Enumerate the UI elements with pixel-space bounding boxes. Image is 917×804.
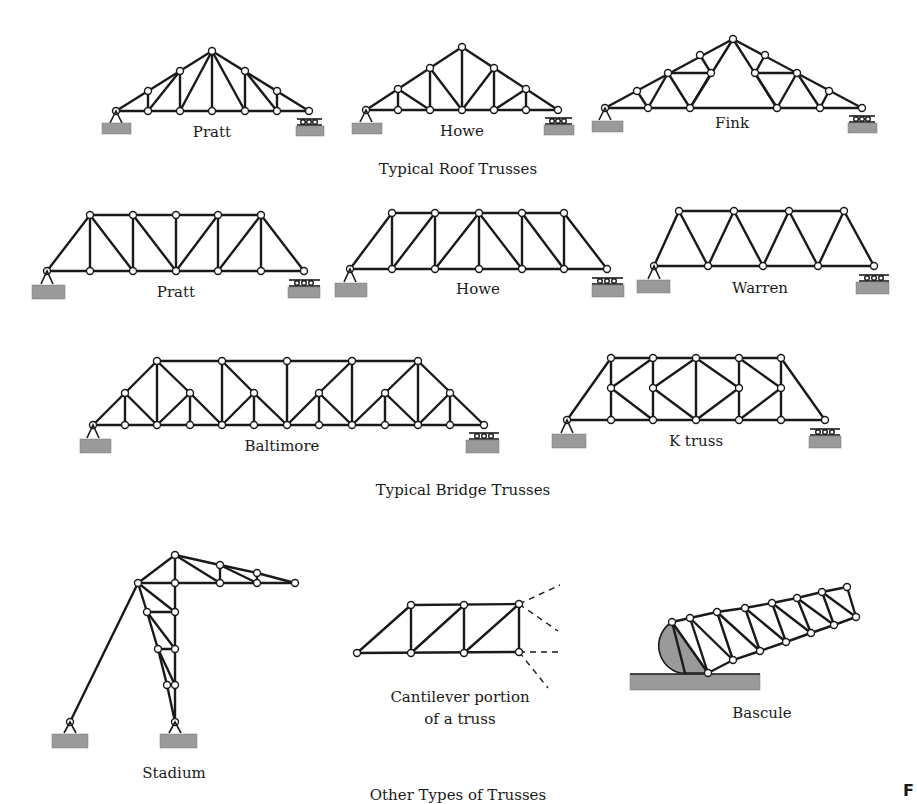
roof-fink-truss: Fink xyxy=(592,36,877,134)
pin-support xyxy=(352,110,382,134)
truss-label: Warren xyxy=(732,279,788,297)
roller-support xyxy=(466,433,499,453)
pin-support xyxy=(160,722,197,748)
truss-label: Bascule xyxy=(732,704,792,722)
truss-label-line2: of a truss xyxy=(424,710,495,728)
roller-support xyxy=(856,275,889,294)
stadium-truss: Stadium xyxy=(52,552,299,783)
roof-howe-truss: Howe xyxy=(352,44,574,141)
roof-pratt-truss: Pratt xyxy=(102,48,324,142)
truss-label: Stadium xyxy=(142,764,206,782)
roller-support xyxy=(592,278,624,297)
bridge-baltimore-truss: Baltimore xyxy=(80,358,499,456)
truss-label: Cantilever portion xyxy=(390,688,530,706)
truss-label: Pratt xyxy=(157,283,195,301)
truss-label: Howe xyxy=(440,122,484,140)
truss-figure: Pratt xyxy=(0,0,917,804)
section-caption-bridge: Typical Bridge Trusses xyxy=(376,481,550,499)
bascule-truss: Bascule xyxy=(630,584,860,723)
roller-support xyxy=(544,118,574,135)
pin-support xyxy=(335,269,367,297)
cantilever-truss: Cantilever portion of a truss xyxy=(354,585,564,728)
truss-label: Pratt xyxy=(193,123,231,141)
bridge-warren-truss: Warren xyxy=(637,208,889,298)
roller-support xyxy=(809,429,841,448)
truss-label: Fink xyxy=(715,114,750,132)
figure-corner-mark: F xyxy=(903,781,914,800)
pin-support xyxy=(552,420,586,448)
roller-support xyxy=(288,280,320,298)
section-caption-other: Other Types of Trusses xyxy=(370,786,546,804)
bridge-pratt-truss: Pratt xyxy=(32,212,320,302)
truss-label: Baltimore xyxy=(245,437,320,455)
truss-label: Howe xyxy=(456,280,500,298)
pin-support xyxy=(80,425,111,453)
section-caption-roof: Typical Roof Trusses xyxy=(379,160,537,178)
roller-support xyxy=(296,119,324,136)
roller-support xyxy=(848,116,877,133)
pin-support xyxy=(32,271,65,299)
truss-label: K truss xyxy=(669,432,723,450)
bridge-howe-truss: Howe xyxy=(335,210,624,299)
pin-support xyxy=(592,108,623,132)
bridge-k-truss: K truss xyxy=(552,355,841,451)
